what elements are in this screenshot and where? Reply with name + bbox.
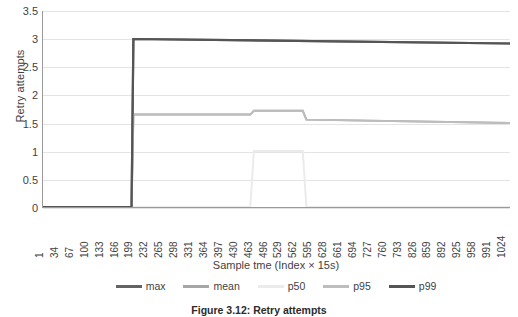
x-tick-label: 859 xyxy=(422,241,432,258)
y-tick-label: 2 xyxy=(6,90,38,100)
x-tick-label: 265 xyxy=(154,241,164,258)
gridline xyxy=(43,208,510,209)
legend-item-mean[interactable]: mean xyxy=(183,281,239,292)
x-tick-label: 232 xyxy=(139,241,149,258)
x-tick-label: 1024 xyxy=(497,236,507,258)
x-tick-label: 100 xyxy=(80,241,90,258)
x-tick-label: 199 xyxy=(124,241,134,258)
x-tick-label: 826 xyxy=(408,241,418,258)
x-tick-label: 760 xyxy=(378,241,388,258)
x-tick-label: 793 xyxy=(393,241,403,258)
x-tick-label: 166 xyxy=(110,241,120,258)
legend-swatch-icon xyxy=(258,285,284,287)
legend-label: mean xyxy=(213,281,239,292)
legend-label: p50 xyxy=(288,281,306,292)
y-tick-label: 3 xyxy=(6,34,38,44)
x-tick-label: 298 xyxy=(169,241,179,258)
x-tick-label: 364 xyxy=(199,241,209,258)
x-tick-label: 463 xyxy=(244,241,254,258)
legend-item-max[interactable]: max xyxy=(116,281,166,292)
chart-legend: maxmeanp50p95p99 xyxy=(42,281,510,292)
series-line-max xyxy=(43,39,510,207)
x-tick-label: 331 xyxy=(184,241,194,258)
x-tick-label: 133 xyxy=(95,241,105,258)
figure-root: Retry attempts 00.511.522.533.5 13467100… xyxy=(0,0,518,317)
x-tick-label: 991 xyxy=(482,241,492,258)
legend-swatch-icon xyxy=(183,285,209,287)
x-tick-label: 529 xyxy=(273,241,283,258)
legend-swatch-icon xyxy=(389,285,415,287)
y-tick-label: 3.5 xyxy=(6,6,38,16)
x-tick-label: 958 xyxy=(467,241,477,258)
x-tick-label: 892 xyxy=(437,241,447,258)
y-tick-label: 0 xyxy=(6,203,38,213)
legend-item-p99[interactable]: p99 xyxy=(389,281,437,292)
x-tick-label: 1 xyxy=(35,252,45,258)
series-line-p50 xyxy=(43,151,510,207)
y-axis-tick-labels: 00.511.522.533.5 xyxy=(0,0,38,220)
x-tick-label: 397 xyxy=(214,241,224,258)
x-tick-label: 34 xyxy=(50,247,60,258)
x-axis-tick-labels: 1346710013316619923226529833136439743046… xyxy=(42,210,510,258)
legend-label: p95 xyxy=(353,281,371,292)
x-tick-label: 562 xyxy=(288,241,298,258)
series-line-p95 xyxy=(43,111,510,207)
x-tick-label: 925 xyxy=(452,241,462,258)
series-line-p99 xyxy=(43,39,510,207)
legend-item-p95[interactable]: p95 xyxy=(323,281,371,292)
y-tick-label: 1.5 xyxy=(6,119,38,129)
x-tick-label: 661 xyxy=(333,241,343,258)
x-tick-label: 595 xyxy=(303,241,313,258)
legend-label: p99 xyxy=(419,281,437,292)
y-tick-label: 0.5 xyxy=(6,175,38,185)
x-axis-title: Sample tme (Index × 15s) xyxy=(42,259,510,271)
x-tick-label: 430 xyxy=(229,241,239,258)
legend-item-p50[interactable]: p50 xyxy=(258,281,306,292)
x-tick-label: 496 xyxy=(259,241,269,258)
legend-swatch-icon xyxy=(116,285,142,287)
y-tick-label: 2.5 xyxy=(6,62,38,72)
legend-swatch-icon xyxy=(323,285,349,287)
x-tick-label: 694 xyxy=(348,241,358,258)
series-line-mean xyxy=(43,111,510,207)
legend-label: max xyxy=(146,281,166,292)
x-tick-label: 727 xyxy=(363,241,373,258)
plot-area xyxy=(42,11,510,208)
figure-caption: Figure 3.12: Retry attempts xyxy=(0,304,518,316)
x-tick-label: 628 xyxy=(318,241,328,258)
y-tick-label: 1 xyxy=(6,147,38,157)
x-tick-label: 67 xyxy=(65,247,75,258)
series-layer xyxy=(43,11,510,207)
